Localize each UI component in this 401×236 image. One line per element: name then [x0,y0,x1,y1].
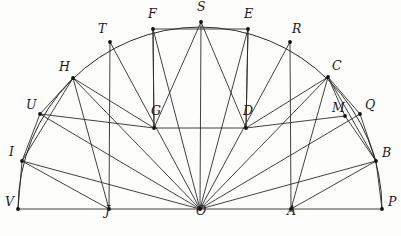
point-R [288,40,292,44]
point-label-D: D [243,105,253,118]
point-label-I: I [9,146,14,159]
point-label-T: T [98,23,106,36]
point-label-Q: Q [365,99,375,112]
chord-IJ [22,161,109,209]
point-label-U: U [26,99,37,112]
point-label-V: V [5,196,14,209]
point-label-E: E [244,8,253,21]
point-V [16,207,20,211]
point-label-P: P [388,196,396,209]
point-label-F: F [148,8,157,21]
chord-UG [40,114,154,128]
point-U [38,112,42,116]
point-H [71,76,75,80]
point-label-A: A [287,205,296,218]
segments-layer [18,22,382,209]
radius-OC [200,77,328,209]
point-C [326,75,330,79]
point-label-J: J [105,205,110,218]
point-label-R: R [292,23,301,36]
chord-HG [73,78,154,128]
chord-MD [246,116,345,128]
point-P [380,207,384,211]
point-G [152,126,156,130]
point-label-O: O [196,205,206,218]
chord-TJ [109,42,110,209]
point-label-C: C [332,60,342,73]
point-B [374,159,378,163]
point-E [246,27,250,31]
chord-CB [328,77,376,161]
chord-GS [154,22,201,128]
point-Q [358,112,362,116]
chord-BA [291,161,376,209]
point-label-B: B [382,147,391,160]
point-label-M: M [332,102,345,115]
chord-HJ [73,78,109,209]
point-S [199,20,203,24]
geometry-figure: VIUHTFSERCQBPJOAGDM [0,0,401,236]
radius-OH [73,78,200,209]
radius-OE [200,29,248,209]
point-I [20,159,24,163]
chord-UI [22,114,40,161]
point-D [244,126,248,130]
radius-OB [200,161,376,209]
radius-OF [153,29,200,209]
point-T [108,40,112,44]
point-label-S: S [197,1,206,14]
radius-OS [200,22,201,209]
point-label-H: H [59,61,70,74]
chord-SD [201,22,246,128]
point-F [151,27,155,31]
geometry-canvas [0,0,401,236]
point-label-G: G [151,105,161,118]
radius-OI [22,161,200,209]
chord-HI [22,78,73,161]
